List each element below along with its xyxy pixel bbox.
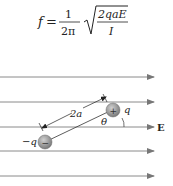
negative-charge-label: −q [22, 136, 37, 147]
frequency-formula: f = 1 2π 2qaE I [0, 0, 173, 60]
positive-sign: + [110, 106, 118, 116]
negative-sign: − [42, 138, 50, 148]
angle-label: θ [101, 116, 107, 127]
angle-arc [122, 118, 124, 127]
positive-charge: + [106, 103, 120, 117]
formula-denominator: 2π [61, 25, 75, 38]
positive-charge-label: q [124, 104, 130, 115]
negative-charge: − [38, 135, 52, 149]
dipole-diagram: E 2a θ − −q + q [0, 60, 173, 186]
formula-numerator: 1 [65, 8, 72, 21]
radicand-numerator: 2qaE [97, 8, 127, 21]
radicand-denominator: I [108, 25, 114, 38]
field-label: E [157, 122, 165, 133]
separation-label: 2a [69, 108, 82, 119]
formula-equals: = [46, 14, 57, 29]
dimension-line [42, 113, 72, 128]
formula-lhs: f [37, 14, 45, 29]
